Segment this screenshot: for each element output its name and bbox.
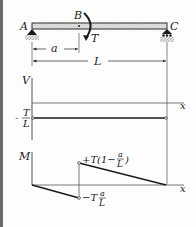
moment-arrowhead-icon xyxy=(83,35,89,41)
label-t: T xyxy=(91,32,100,45)
moment-lower-frac-den: L xyxy=(98,198,105,208)
dimension-l: L xyxy=(33,55,166,68)
moment-lower-point xyxy=(78,197,81,200)
shear-end-point xyxy=(165,117,168,120)
moment-diagram: M x +T(1− a L ) −T a L xyxy=(18,150,186,208)
moment-left-segment xyxy=(32,185,79,198)
moment-lower-frac-num: a xyxy=(100,189,105,198)
beam-diagram: A B C T a L V x - T L M x xyxy=(0,0,196,227)
moment-upper-frac-num: a xyxy=(118,150,123,159)
label-b: B xyxy=(73,9,82,22)
shear-value-sign: - xyxy=(15,112,19,123)
label-dim-l: L xyxy=(93,55,101,68)
shear-value-num: T xyxy=(23,107,31,118)
moment-upper-label: +T(1− xyxy=(82,154,116,165)
point-b-marker xyxy=(78,25,80,27)
moment-upper-frac-den: L xyxy=(116,159,123,169)
moment-lower-label: −T xyxy=(82,192,98,203)
dimension-a: a xyxy=(33,42,78,55)
label-a: A xyxy=(19,20,28,33)
moment-axis-label: M xyxy=(18,150,31,163)
moment-x-label: x xyxy=(180,183,186,194)
beam xyxy=(32,23,167,29)
shear-value-den: L xyxy=(22,118,30,129)
shear-axis-label: V xyxy=(22,74,31,87)
moment-upper-point xyxy=(78,162,81,165)
shear-start-point xyxy=(32,117,35,120)
shear-diagram: V x - T L xyxy=(15,74,186,140)
label-dim-a: a xyxy=(51,42,58,55)
label-c: C xyxy=(170,20,179,33)
moment-upper-close: ) xyxy=(124,154,129,165)
shear-x-label: x xyxy=(180,100,186,111)
